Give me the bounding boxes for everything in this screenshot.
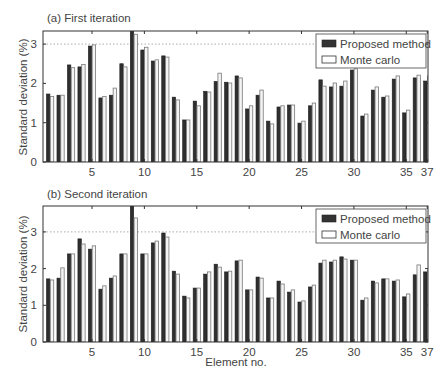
y-tick-label: 0 — [31, 336, 37, 348]
bar-proposed-2 — [57, 278, 60, 342]
bar-monte-carlo-35 — [406, 110, 409, 162]
bar-proposed-6 — [99, 289, 102, 342]
panel-title: (a) First iteration — [47, 12, 131, 24]
x-tick-label: 25 — [295, 166, 308, 178]
bar-monte-carlo-5 — [92, 246, 95, 342]
chart-canvas: (a) First iteration Standard deviation (… — [0, 0, 444, 383]
legend: Proposed method Monte carlo — [316, 34, 431, 68]
bar-proposed-30 — [350, 260, 353, 342]
bar-monte-carlo-12 — [166, 57, 169, 162]
figure: (a) First iteration Standard deviation (… — [0, 0, 444, 383]
x-tick-label: 35 — [400, 166, 413, 178]
bar-proposed-17 — [214, 81, 217, 162]
bar-monte-carlo-2 — [61, 95, 64, 162]
x-axis-label: Element no. — [205, 356, 266, 368]
bar-proposed-37 — [424, 272, 427, 342]
bar-proposed-5 — [88, 249, 91, 342]
bar-proposed-22 — [267, 298, 270, 342]
bar-monte-carlo-27 — [323, 86, 326, 162]
panel-title: (b) Second iteration — [47, 188, 147, 200]
y-tick-label: 1 — [31, 117, 37, 129]
bar-monte-carlo-18 — [228, 271, 231, 342]
bar-monte-carlo-28 — [333, 260, 336, 342]
legend-label-proposed: Proposed method — [340, 38, 431, 50]
bar-proposed-34 — [392, 79, 395, 162]
bar-proposed-37 — [424, 81, 427, 162]
panel-first-iteration: (a) First iteration Standard deviation (… — [17, 12, 434, 178]
bar-proposed-13 — [172, 97, 175, 162]
bar-monte-carlo-10 — [145, 47, 148, 162]
bar-proposed-29 — [340, 257, 343, 342]
bar-proposed-30 — [350, 70, 353, 162]
legend-swatch-monte-carlo — [322, 231, 336, 238]
x-tick-label: 30 — [348, 346, 361, 358]
bar-proposed-21 — [256, 277, 259, 342]
bar-monte-carlo-26 — [312, 285, 315, 342]
x-tick-label: 10 — [138, 346, 151, 358]
bar-monte-carlo-24 — [291, 105, 294, 162]
bar-proposed-7 — [109, 95, 112, 162]
bar-monte-carlo-15 — [197, 288, 200, 342]
bar-monte-carlo-12 — [166, 237, 169, 342]
bar-monte-carlo-34 — [396, 280, 399, 342]
y-tick-label: 3 — [31, 38, 37, 50]
bar-proposed-34 — [392, 281, 395, 342]
bar-monte-carlo-25 — [302, 121, 305, 162]
bar-proposed-35 — [403, 113, 406, 162]
bar-proposed-10 — [141, 254, 144, 342]
x-tick-label: 37 — [421, 346, 434, 358]
bar-monte-carlo-28 — [333, 83, 336, 162]
bar-proposed-15 — [193, 288, 196, 342]
bar-monte-carlo-9 — [134, 218, 137, 342]
bar-proposed-12 — [162, 56, 165, 162]
bar-monte-carlo-29 — [344, 259, 347, 342]
bar-proposed-3 — [67, 254, 70, 342]
panel-second-iteration: (b) Second iteration Standard deviation … — [17, 188, 434, 358]
bar-monte-carlo-27 — [323, 260, 326, 342]
bar-proposed-27 — [319, 80, 322, 162]
y-axis-label: Standard deviation (%) — [17, 38, 29, 155]
bar-monte-carlo-9 — [134, 34, 137, 162]
bar-proposed-24 — [287, 292, 290, 342]
bar-proposed-14 — [183, 120, 186, 162]
bar-proposed-33 — [382, 97, 385, 162]
bar-monte-carlo-8 — [124, 254, 127, 342]
bar-monte-carlo-4 — [82, 244, 85, 342]
bar-monte-carlo-5 — [92, 45, 95, 162]
bar-proposed-10 — [141, 50, 144, 162]
x-tick-label: 10 — [138, 166, 151, 178]
x-tick-label: 37 — [421, 166, 434, 178]
bar-monte-carlo-31 — [365, 114, 368, 162]
bar-monte-carlo-13 — [176, 100, 179, 162]
bar-monte-carlo-21 — [260, 278, 263, 342]
bar-monte-carlo-30 — [354, 260, 357, 342]
bar-monte-carlo-36 — [417, 265, 420, 342]
y-tick-label: 3 — [31, 226, 37, 238]
bar-proposed-32 — [371, 90, 374, 162]
legend-swatch-proposed — [322, 215, 336, 222]
bar-proposed-23 — [277, 107, 280, 162]
bar-proposed-2 — [57, 95, 60, 162]
bar-monte-carlo-23 — [281, 284, 284, 342]
bar-monte-carlo-32 — [375, 87, 378, 162]
legend-label-monte-carlo: Monte carlo — [340, 54, 400, 66]
bar-monte-carlo-33 — [386, 279, 389, 342]
x-tick-label: 20 — [243, 166, 256, 178]
bar-proposed-8 — [120, 254, 123, 342]
bar-proposed-18 — [225, 82, 228, 162]
bar-monte-carlo-30 — [354, 69, 357, 162]
bar-proposed-32 — [371, 281, 374, 342]
bar-proposed-31 — [361, 300, 364, 342]
bar-proposed-4 — [78, 67, 81, 162]
bar-monte-carlo-18 — [228, 83, 231, 162]
bar-proposed-19 — [235, 261, 238, 342]
bar-proposed-23 — [277, 281, 280, 342]
x-tick-label: 30 — [348, 166, 361, 178]
bar-proposed-22 — [267, 121, 270, 162]
bar-monte-carlo-14 — [186, 120, 189, 162]
bar-monte-carlo-21 — [260, 90, 263, 162]
bar-proposed-16 — [204, 91, 207, 162]
x-tick-label: 5 — [89, 346, 95, 358]
y-tick-label: 0 — [31, 156, 37, 168]
bar-proposed-9 — [130, 30, 133, 162]
